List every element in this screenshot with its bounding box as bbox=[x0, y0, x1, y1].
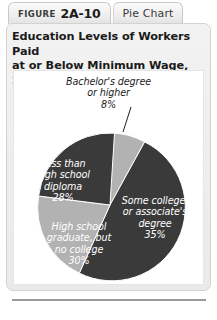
pie-label-less-than-line-2: high school bbox=[22, 169, 104, 180]
figure-kind-tab: Pie Chart bbox=[113, 2, 184, 24]
pie-label-some-college: Some college, or associate's degree 35% bbox=[112, 195, 198, 241]
figure-number-tab: FIGURE 2A-10 bbox=[8, 2, 111, 24]
pie-label-bachelors-percent: 8% bbox=[56, 99, 161, 110]
pie-label-less-than-line-3: diploma bbox=[22, 181, 104, 192]
pie-label-bachelors-line-1: Bachelor's degree bbox=[56, 76, 161, 87]
pie-label-hs-grad-percent: 30% bbox=[33, 255, 125, 266]
pie-label-some-college-line-3: degree bbox=[112, 218, 198, 229]
figure-kind-label: Pie Chart bbox=[123, 7, 174, 20]
figure-tab-word: FIGURE bbox=[18, 9, 56, 19]
pie-label-less-than-line-1: Less than bbox=[22, 158, 104, 169]
pie-label-some-college-line-1: Some college, bbox=[112, 195, 198, 206]
figure-tab-number: 2A-10 bbox=[61, 6, 101, 21]
pie-label-less-than-percent: 28% bbox=[22, 192, 104, 203]
figure-tab-strip: FIGURE 2A-10 Pie Chart bbox=[8, 2, 183, 24]
bottom-divider bbox=[12, 299, 206, 301]
pie-label-some-college-percent: 35% bbox=[112, 229, 198, 240]
pie-label-hs-grad-line-3: no college bbox=[33, 244, 125, 255]
figure-container: FIGURE 2A-10 Pie Chart Education Levels … bbox=[0, 0, 217, 320]
leader-line-bachelors-degree bbox=[123, 107, 131, 132]
chart-title-line-1: Education Levels of Workers Paid bbox=[12, 30, 207, 59]
pie-label-bachelors-degree: Bachelor's degree or higher 8% bbox=[56, 76, 161, 110]
pie-label-less-than-high-school: Less than high school diploma 28% bbox=[22, 158, 104, 204]
pie-label-some-college-line-2: or associate's bbox=[112, 206, 198, 217]
pie-label-bachelors-line-2: or higher bbox=[56, 87, 161, 98]
